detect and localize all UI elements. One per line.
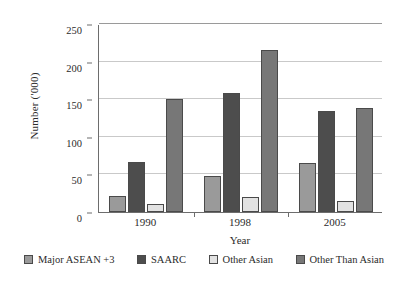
legend-item-major-asean-3[interactable]: Major ASEAN +3 xyxy=(24,254,115,265)
x-axis-title: Year xyxy=(98,234,382,246)
y-tick-mark-0 xyxy=(87,213,92,214)
bar-1998-major-asean-3 xyxy=(204,176,221,212)
legend-item-saarc[interactable]: SAARC xyxy=(137,254,186,265)
x-tick-label-1998: 1998 xyxy=(229,216,251,228)
y-tick-mark-150 xyxy=(87,100,92,101)
x-tick-label-2005: 2005 xyxy=(324,216,346,228)
y-tick-mark-200 xyxy=(87,62,92,63)
bar-2005-saarc xyxy=(318,111,335,212)
bar-1998-other-asian xyxy=(242,197,259,212)
legend-label: Major ASEAN +3 xyxy=(38,254,115,265)
legend-swatch-icon xyxy=(137,255,146,264)
bar-group-1990 xyxy=(99,25,194,212)
bar-1990-major-asean-3 xyxy=(109,196,126,212)
legend-swatch-icon xyxy=(296,255,305,264)
bar-1990-other-asian xyxy=(147,204,164,212)
bar-2005-other-than-asian xyxy=(356,108,373,212)
bar-group-1998 xyxy=(194,25,289,212)
chart-legend: Major ASEAN +3SAARCOther AsianOther Than… xyxy=(24,254,384,265)
x-tick-label-1990: 1990 xyxy=(134,216,156,228)
bar-1990-other-than-asian xyxy=(166,99,183,212)
legend-item-other-asian[interactable]: Other Asian xyxy=(209,254,273,265)
bar-1998-other-than-asian xyxy=(261,50,278,212)
y-axis-title: Number ('000) xyxy=(28,36,40,176)
y-tick-mark-50 xyxy=(87,175,92,176)
bar-1998-saarc xyxy=(223,93,240,212)
bar-group-2005 xyxy=(288,25,383,212)
legend-label: Other Than Asian xyxy=(310,254,384,265)
bar-1990-saarc xyxy=(128,162,145,212)
legend-label: Other Asian xyxy=(223,254,273,265)
legend-swatch-icon xyxy=(209,255,218,264)
gridline-250 xyxy=(99,23,382,24)
bar-2005-major-asean-3 xyxy=(299,163,316,212)
y-axis-tick-labels: 050100150200250 xyxy=(56,25,92,213)
bars-layer xyxy=(99,25,382,212)
y-tick-mark-100 xyxy=(87,137,92,138)
bar-chart-figure: Number ('000) 050100150200250 1990199820… xyxy=(0,0,402,292)
legend-label: SAARC xyxy=(151,254,186,265)
bar-2005-other-asian xyxy=(337,201,354,212)
x-axis-tick-labels: 199019982005 xyxy=(98,216,382,232)
y-tick-mark-250 xyxy=(87,25,92,26)
legend-item-other-than-asian[interactable]: Other Than Asian xyxy=(296,254,384,265)
legend-swatch-icon xyxy=(24,255,33,264)
plot-area xyxy=(98,25,382,213)
